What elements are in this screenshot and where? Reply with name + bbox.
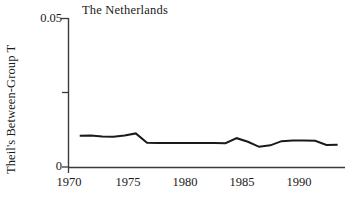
x-tick-label-1985: 1985 xyxy=(218,175,266,190)
axis-ticks xyxy=(61,19,304,174)
chart-figure: The Netherlands Theil's Between-Group T … xyxy=(0,0,349,202)
x-tick-label-1970: 1970 xyxy=(45,175,93,190)
x-tick-label-1980: 1980 xyxy=(161,175,209,190)
x-tick-label-1975: 1975 xyxy=(104,175,152,190)
data-series-line xyxy=(80,133,338,146)
y-tick-label-max: 0.05 xyxy=(26,11,62,26)
x-tick-label-1990: 1990 xyxy=(275,175,323,190)
axis-lines xyxy=(68,18,345,168)
y-tick-label-min: 0 xyxy=(40,159,62,174)
